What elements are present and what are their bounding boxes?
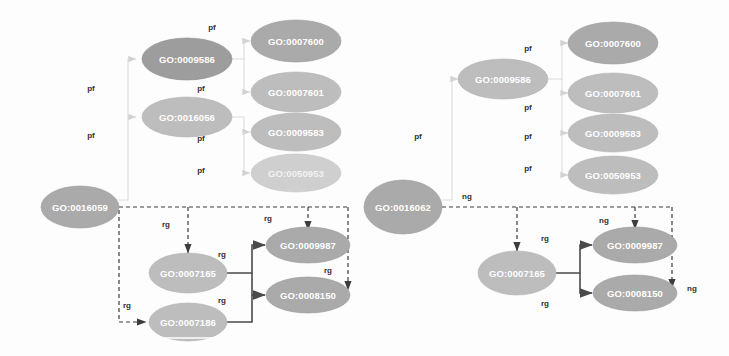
edge-label-rg: rg — [162, 220, 170, 229]
node-go-0007600-right[interactable]: GO:0007600 — [568, 22, 658, 64]
node-go-0016062[interactable]: GO:0016062 — [364, 180, 442, 234]
node-go-0007600-left[interactable]: GO:0007600 — [251, 20, 341, 62]
node-label: GO:0007165 — [160, 268, 217, 279]
node-label: GO:0016056 — [159, 112, 215, 123]
edge-label-rg: rg — [324, 266, 332, 275]
node-go-0050953-left[interactable]: GO:0050953 — [251, 154, 341, 192]
edge-label-pf: pf — [197, 134, 205, 143]
edge-016062-009586 — [442, 79, 458, 200]
node-label: GO:0007186 — [160, 317, 216, 328]
node-label: GO:0009583 — [268, 127, 324, 138]
node-go-0009586-left[interactable]: GO:0009586 — [142, 38, 232, 80]
edge-label-ng: ng — [462, 192, 472, 201]
edge-label-ng: ng — [599, 216, 609, 225]
edge-007186-008150 — [226, 295, 252, 322]
edge-016059-009586 — [118, 59, 136, 200]
left-solid-edges — [226, 245, 265, 322]
node-go-0009987-left[interactable]: GO:0009987 — [266, 227, 350, 263]
edge-label-ng: ng — [687, 284, 697, 293]
node-go-0009586-right[interactable]: GO:0009586 — [458, 59, 548, 99]
edge-label-rg: rg — [264, 214, 272, 223]
node-label: GO:0009987 — [280, 240, 336, 251]
node-label: GO:0009583 — [585, 128, 641, 139]
edge-label-pf: pf — [87, 131, 95, 140]
node-go-0009987-right[interactable]: GO:0009987 — [593, 227, 677, 263]
node-go-0009583-right[interactable]: GO:0009583 — [568, 114, 658, 152]
node-label: GO:0007601 — [585, 88, 642, 99]
node-label: GO:0016059 — [52, 202, 108, 213]
node-label: GO:0008150 — [607, 288, 663, 299]
node-label: GO:0008150 — [280, 290, 336, 301]
edge-009586-007601-right — [562, 79, 568, 93]
graph-svg: GO:0016059 GO:0009586 GO:0016056 GO:0007… — [0, 0, 729, 356]
node-label: GO:0007600 — [585, 38, 641, 49]
right-nodes: GO:0016062 GO:0009586 GO:0007600 GO:0007… — [364, 22, 677, 311]
left-nodes: GO:0016059 GO:0009586 GO:0016056 GO:0007… — [41, 20, 350, 341]
edge-007165-009987 — [226, 245, 265, 273]
node-go-0009583-left[interactable]: GO:0009583 — [251, 113, 341, 151]
edge-label-pf: pf — [197, 166, 205, 175]
node-label: GO:0050953 — [268, 168, 324, 179]
node-label: GO:0016062 — [375, 202, 431, 213]
edge-label-pf: pf — [414, 132, 422, 141]
node-label: GO:0009586 — [159, 54, 215, 65]
edge-009586-007600-right — [548, 43, 568, 79]
edge-label-rg: rg — [541, 299, 549, 308]
edge-label-pf: pf — [524, 164, 532, 173]
node-go-0007165-right[interactable]: GO:0007165 — [478, 251, 556, 295]
graph-canvas: GO:0016059 GO:0009586 GO:0016056 GO:0007… — [0, 0, 729, 356]
node-go-0016059[interactable]: GO:0016059 — [41, 186, 119, 228]
edge-007165-008150 — [252, 273, 265, 295]
edge-label-pf: pf — [524, 44, 532, 53]
node-go-0007601-right[interactable]: GO:0007601 — [568, 73, 658, 113]
edge-label-rg: rg — [123, 301, 131, 310]
edge-007165-008150-right — [580, 273, 592, 293]
node-go-0007186-left[interactable]: GO:0007186 — [149, 303, 227, 341]
edge-009586-009583-right — [562, 93, 568, 133]
edge-label-pf: pf — [197, 84, 205, 93]
node-go-0008150-right[interactable]: GO:0008150 — [593, 275, 677, 311]
node-go-0050953-right[interactable]: GO:0050953 — [568, 156, 658, 194]
edge-label-rg: rg — [218, 250, 226, 259]
node-label: GO:0009987 — [607, 240, 663, 251]
edge-label-pf: pf — [524, 103, 532, 112]
edge-label-rg: rg — [218, 296, 226, 305]
node-go-0007601-left[interactable]: GO:0007601 — [251, 72, 341, 112]
node-label: GO:0007601 — [268, 87, 325, 98]
edge-009586-050953-right — [562, 133, 568, 175]
edge-016056-009583 — [232, 117, 250, 132]
node-label: GO:0009586 — [475, 74, 531, 85]
edge-label-pf: pf — [524, 132, 532, 141]
edge-007165-009987-right — [555, 245, 592, 273]
node-label: GO:0007600 — [268, 36, 324, 47]
right-solid-edges — [555, 245, 592, 293]
node-go-0008150-left[interactable]: GO:0008150 — [266, 277, 350, 313]
edge-009586-007601 — [244, 59, 250, 92]
edge-009586-007600 — [232, 41, 250, 59]
edge-label-pf: pf — [87, 84, 95, 93]
node-go-0016056[interactable]: GO:0016056 — [142, 97, 232, 137]
node-label: GO:0050953 — [585, 170, 641, 181]
edge-label-pf: pf — [208, 23, 216, 32]
node-label: GO:0007165 — [489, 268, 546, 279]
node-go-0007165-left[interactable]: GO:0007165 — [149, 253, 227, 293]
edge-016056-050953 — [244, 132, 250, 173]
edge-label-rg: rg — [541, 234, 549, 243]
